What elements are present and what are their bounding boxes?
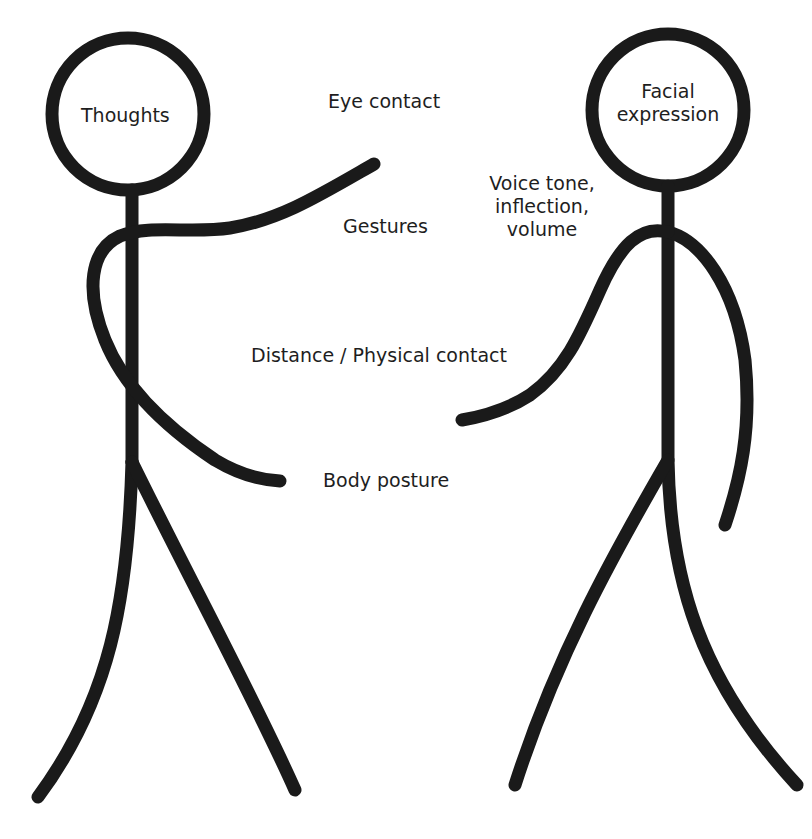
body-posture-label: Body posture [323,469,449,492]
voice-line-1: Voice tone, [478,172,606,195]
eye-contact-label: Eye contact [328,90,440,113]
right-leg [515,460,668,785]
right-arm-reaching [462,231,668,420]
right-arm-down [668,232,747,525]
voice-line-3: volume [478,218,606,241]
gestures-label: Gestures [343,215,428,238]
facial-expression-line-2: expression [606,103,730,126]
voice-label: Voice tone, inflection, volume [478,172,606,241]
distance-physical-contact-label: Distance / Physical contact [251,344,507,367]
left-leg-1 [38,462,132,797]
voice-line-2: inflection, [478,195,606,218]
left-leg-2 [132,462,295,790]
facial-expression-line-1: Facial [606,80,730,103]
left-figure [38,38,374,797]
right-figure [462,34,797,785]
thoughts-label: Thoughts [81,104,170,127]
facial-expression-label: Facial expression [606,80,730,126]
